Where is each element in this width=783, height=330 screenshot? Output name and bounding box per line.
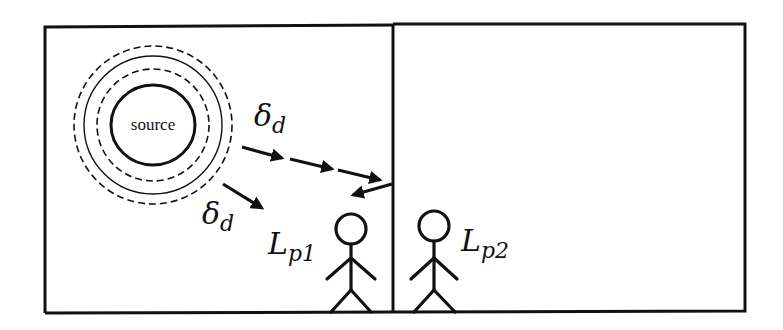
arrow-segment-3: [338, 170, 380, 180]
direct-arrow-to-listener: [223, 184, 262, 208]
direct-path-arrows: [223, 147, 392, 208]
source-label: source: [131, 115, 175, 134]
listener-2-figure: [411, 211, 457, 312]
reflected-arrow: [353, 184, 392, 195]
listener-2-label: Lp2: [460, 223, 509, 263]
arrow-segment-1: [242, 147, 282, 158]
listener-1-figure: [327, 214, 375, 312]
delta-label-upper: δd: [254, 98, 286, 138]
source-group: source: [74, 46, 232, 204]
arrow-segment-2: [290, 159, 332, 169]
listener-1-label: Lp1: [267, 226, 316, 266]
diagram-canvas: source δd δd Lp1 Lp2: [0, 0, 783, 330]
delta-label-lower: δd: [202, 196, 234, 236]
